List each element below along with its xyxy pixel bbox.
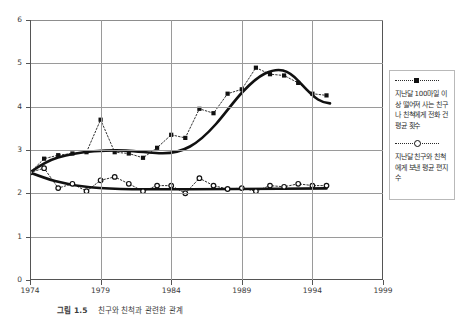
y-tick-label-4: 4 <box>4 103 22 111</box>
chart-legend: 지난달 100마일 이상 떨어져 사는 친구나 친척에게 전화 건 평균 횟수 … <box>389 70 455 200</box>
x-tick-label-1999: 1999 <box>363 286 403 295</box>
legend-entry-letters: 지난달 친구와 친척에게 보낸 평균 편지 수 <box>395 140 450 184</box>
x-tick-label-1984: 1984 <box>151 286 191 295</box>
y-tick-5 <box>26 63 31 64</box>
x-tick-label-1979: 1979 <box>81 286 121 295</box>
y-tick-label-3: 3 <box>4 146 22 154</box>
x-tick-label-1994: 1994 <box>292 286 332 295</box>
legend-entry-phone-calls: 지난달 100마일 이상 떨어져 사는 친구나 친척에게 전화 건 평균 횟수 <box>395 77 450 131</box>
square-marker-glyph <box>414 78 419 83</box>
filled-square-marker <box>395 77 439 85</box>
y-tick-label-0: 0 <box>4 276 22 284</box>
y-tick-3 <box>26 150 31 151</box>
y-tick-label-1: 1 <box>4 233 22 241</box>
legend-label-phone-calls: 지난달 100마일 이상 떨어져 사는 친구나 친척에게 전화 건 평균 횟수 <box>395 89 450 131</box>
figure-caption-text: 친구와 친척과 관련한 관계 <box>98 306 184 315</box>
y-tick-2 <box>26 193 31 194</box>
x-tick-1989 <box>242 280 243 285</box>
figure-caption: 그림 1.5친구와 친척과 관련한 관계 <box>57 304 183 315</box>
x-tick-label-1974: 1974 <box>10 286 50 295</box>
y-tick-label-2: 2 <box>4 189 22 197</box>
x-tick-label-1989: 1989 <box>222 286 262 295</box>
y-tick-label-5: 5 <box>4 59 22 67</box>
open-circle-marker <box>395 140 439 148</box>
x-tick-1994 <box>312 280 313 285</box>
y-tick-label-6: 6 <box>4 16 22 24</box>
figure-caption-number: 그림 1.5 <box>57 306 88 315</box>
x-tick-1999 <box>383 280 384 285</box>
y-tick-1 <box>26 237 31 238</box>
x-tick-1974 <box>30 280 31 285</box>
legend-label-letters: 지난달 친구와 친척에게 보낸 평균 편지 수 <box>395 152 450 184</box>
y-tick-4 <box>26 107 31 108</box>
x-tick-1979 <box>101 280 102 285</box>
circle-marker-glyph <box>414 140 421 147</box>
x-tick-1984 <box>171 280 172 285</box>
y-tick-6 <box>26 20 31 21</box>
